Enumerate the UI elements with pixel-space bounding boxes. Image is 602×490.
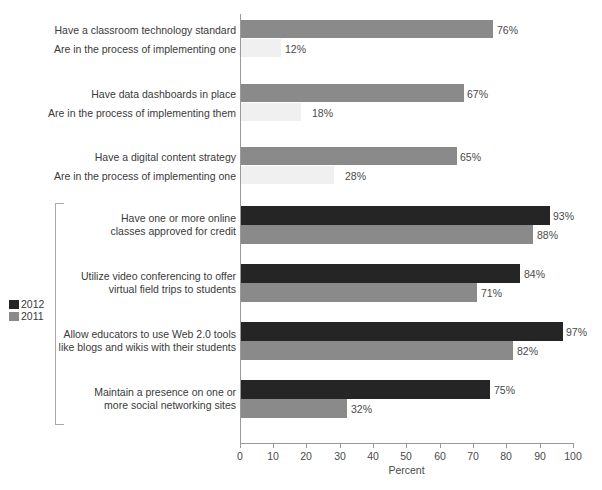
category-label-classroom-in-process: Are in the process of implementing one: [54, 43, 236, 56]
bar-g7-2011: [241, 399, 347, 418]
bar-value-g1-process: 12%: [285, 44, 306, 55]
category-label-web-2-tools: Allow educators to use Web 2.0 tools lik…: [59, 328, 236, 353]
bar-g2-have: [241, 84, 464, 102]
legend-label-2011: 2011: [21, 311, 44, 322]
x-tick-0: [240, 443, 241, 448]
x-tick-label-100: 100: [558, 450, 588, 463]
bar-value-g1-have: 76%: [497, 25, 518, 36]
x-axis-title: Percent: [240, 464, 573, 476]
category-label-digital-content-strategy: Have a digital content strategy: [95, 151, 236, 164]
legend: 2012 2011: [9, 299, 44, 323]
x-tick-100: [573, 443, 574, 448]
x-tick-70: [473, 443, 474, 448]
bar-value-g6-2012: 97%: [566, 327, 587, 338]
bar-value-g7-2011: 32%: [351, 404, 372, 415]
bar-value-g4-2012: 93%: [553, 211, 574, 222]
x-tick-80: [506, 443, 507, 448]
legend-label-2012: 2012: [21, 299, 44, 310]
group-bracket: [55, 203, 64, 425]
category-label-social-networking: Maintain a presence on one or more socia…: [94, 386, 236, 411]
x-tick-10: [273, 443, 274, 448]
bar-g6-2011: [241, 341, 513, 360]
legend-item-2011: 2011: [9, 311, 44, 322]
bar-g5-2011: [241, 283, 477, 302]
category-label-dashboards-in-process: Are in the process of implementing them: [48, 107, 236, 120]
x-tick-20: [306, 443, 307, 448]
bar-g4-2011: [241, 225, 533, 244]
x-tick-label-60: 60: [425, 450, 455, 463]
bar-value-g6-2011: 82%: [517, 346, 538, 357]
x-tick-label-10: 10: [258, 450, 288, 463]
category-label-online-classes-for-credit: Have one or more online classes approved…: [111, 212, 236, 237]
x-tick-label-80: 80: [491, 450, 521, 463]
bar-g4-2012: [241, 206, 550, 225]
bar-g1-process: [241, 39, 281, 57]
x-tick-label-70: 70: [458, 450, 488, 463]
x-tick-50: [406, 443, 407, 448]
category-label-classroom-technology-standard: Have a classroom technology standard: [54, 24, 236, 37]
x-tick-60: [440, 443, 441, 448]
bar-value-g2-process: 18%: [312, 108, 333, 119]
category-label-video-conferencing: Utilize video conferencing to offer virt…: [81, 270, 236, 295]
bar-value-g3-have: 65%: [460, 152, 481, 163]
bar-g7-2012: [241, 380, 490, 399]
x-tick-label-50: 50: [391, 450, 421, 463]
bar-value-g5-2011: 71%: [481, 288, 502, 299]
horizontal-bar-chart: 2012 2011 Have a classroom technology st…: [0, 0, 602, 490]
bar-value-g2-have: 67%: [467, 89, 488, 100]
category-label-digital-in-process: Are in the process of implementing one: [54, 170, 236, 183]
x-tick-label-30: 30: [325, 450, 355, 463]
x-tick-label-90: 90: [525, 450, 555, 463]
bar-g3-process: [241, 166, 334, 184]
x-tick-label-20: 20: [291, 450, 321, 463]
legend-item-2012: 2012: [9, 299, 44, 310]
x-tick-90: [540, 443, 541, 448]
x-tick-30: [340, 443, 341, 448]
legend-swatch-2012: [9, 300, 19, 309]
category-label-data-dashboards: Have data dashboards in place: [91, 88, 236, 101]
bar-value-g3-process: 28%: [345, 171, 366, 182]
bar-g2-process: [241, 103, 301, 121]
bar-g3-have: [241, 147, 457, 165]
bar-g6-2012: [241, 322, 563, 341]
bar-value-g7-2012: 75%: [494, 385, 515, 396]
legend-swatch-2011: [9, 312, 19, 321]
bar-g1-have: [241, 20, 493, 38]
bar-value-g4-2011: 88%: [537, 230, 558, 241]
x-tick-40: [373, 443, 374, 448]
bar-g5-2012: [241, 264, 520, 283]
bar-value-g5-2012: 84%: [524, 269, 545, 280]
x-tick-label-40: 40: [358, 450, 388, 463]
x-tick-label-0: 0: [225, 450, 255, 463]
